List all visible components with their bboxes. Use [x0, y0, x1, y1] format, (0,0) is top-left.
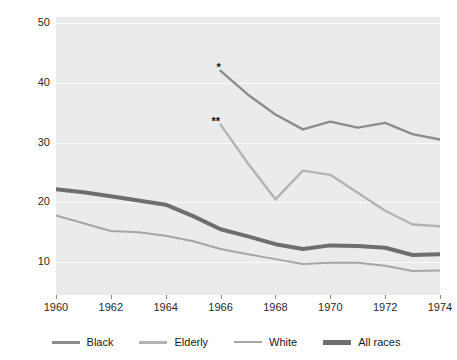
legend-label-black: Black: [87, 336, 114, 348]
annotation-marker-double-asterisk: **: [212, 117, 221, 126]
series-lines: [56, 17, 440, 295]
legend-label-elderly: Elderly: [174, 336, 208, 348]
x-tick-mark-1972: [385, 295, 386, 299]
x-tick-label-1972: 1972: [362, 301, 408, 313]
legend-label-all-races: All races: [358, 336, 400, 348]
chart-legend: BlackElderlyWhiteAll races: [0, 331, 452, 353]
x-tick-label-1968: 1968: [252, 301, 298, 313]
x-tick-mark-1964: [166, 295, 167, 299]
plot-area: [56, 17, 440, 295]
x-tick-mark-1966: [221, 295, 222, 299]
y-tick-label-20: 20: [8, 196, 50, 207]
legend-item-elderly[interactable]: Elderly: [139, 336, 208, 348]
x-tick-label-1964: 1964: [143, 301, 189, 313]
annotation-marker-asterisk: *: [217, 63, 221, 72]
x-tick-label-1962: 1962: [88, 301, 134, 313]
y-tick-label-30: 30: [8, 137, 50, 148]
series-line-black: [221, 71, 440, 140]
y-tick-label-10: 10: [8, 256, 50, 267]
x-tick-label-1960: 1960: [33, 301, 79, 313]
series-line-elderly: [221, 125, 440, 227]
legend-label-white: White: [269, 336, 297, 348]
x-tick-label-1966: 1966: [198, 301, 244, 313]
legend-swatch-black: [52, 341, 80, 344]
x-axis-ticks: 19601962196419661968197019721974: [0, 295, 452, 321]
x-tick-mark-1960: [56, 295, 57, 299]
x-tick-mark-1968: [275, 295, 276, 299]
legend-item-all-races[interactable]: All races: [323, 336, 400, 348]
x-tick-mark-1962: [111, 295, 112, 299]
y-tick-label-50: 50: [8, 17, 50, 28]
legend-swatch-all-races: [323, 340, 351, 345]
y-tick-label-40: 40: [8, 77, 50, 88]
x-tick-label-1970: 1970: [307, 301, 353, 313]
x-tick-mark-1970: [330, 295, 331, 299]
series-line-all-races: [56, 189, 440, 255]
x-tick-label-1974: 1974: [417, 301, 457, 313]
legend-item-white[interactable]: White: [234, 336, 297, 348]
legend-swatch-elderly: [139, 341, 167, 344]
legend-swatch-white: [234, 341, 262, 343]
series-line-white: [56, 215, 440, 271]
legend-item-black[interactable]: Black: [52, 336, 114, 348]
x-tick-mark-1974: [440, 295, 441, 299]
